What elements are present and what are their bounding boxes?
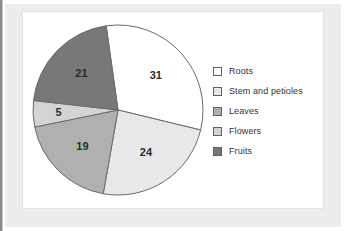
legend-swatch-icon bbox=[213, 127, 222, 136]
pie-chart-figure: 312419521 RootsStem and petiolesLeavesFl… bbox=[0, 0, 345, 231]
legend-item[interactable]: Fruits bbox=[213, 142, 331, 160]
legend-item-label: Leaves bbox=[229, 106, 259, 116]
pie-slice-label: 5 bbox=[56, 106, 62, 118]
pie-chart: 312419521 bbox=[30, 22, 206, 198]
legend-item[interactable]: Stem and petioles bbox=[213, 82, 331, 100]
pie-slice-label: 19 bbox=[76, 140, 88, 152]
pie-slice-label: 31 bbox=[150, 69, 162, 81]
legend-item[interactable]: Leaves bbox=[213, 102, 331, 120]
pie-svg: 312419521 bbox=[30, 22, 206, 198]
legend-item-label: Roots bbox=[229, 66, 253, 76]
legend-item-label: Fruits bbox=[229, 146, 252, 156]
pie-slice-label: 24 bbox=[140, 146, 153, 158]
legend-item-label: Flowers bbox=[229, 126, 261, 136]
legend-item-label: Stem and petioles bbox=[229, 86, 303, 96]
pie-slice-label: 21 bbox=[75, 67, 87, 79]
legend-swatch-icon bbox=[213, 87, 222, 96]
chart-legend: RootsStem and petiolesLeavesFlowersFruit… bbox=[213, 62, 331, 162]
figure-root: 312419521 RootsStem and petiolesLeavesFl… bbox=[0, 0, 345, 231]
legend-swatch-icon bbox=[213, 67, 222, 76]
legend-swatch-icon bbox=[213, 107, 222, 116]
legend-swatch-icon bbox=[213, 147, 222, 156]
legend-item[interactable]: Flowers bbox=[213, 122, 331, 140]
legend-item[interactable]: Roots bbox=[213, 62, 331, 80]
